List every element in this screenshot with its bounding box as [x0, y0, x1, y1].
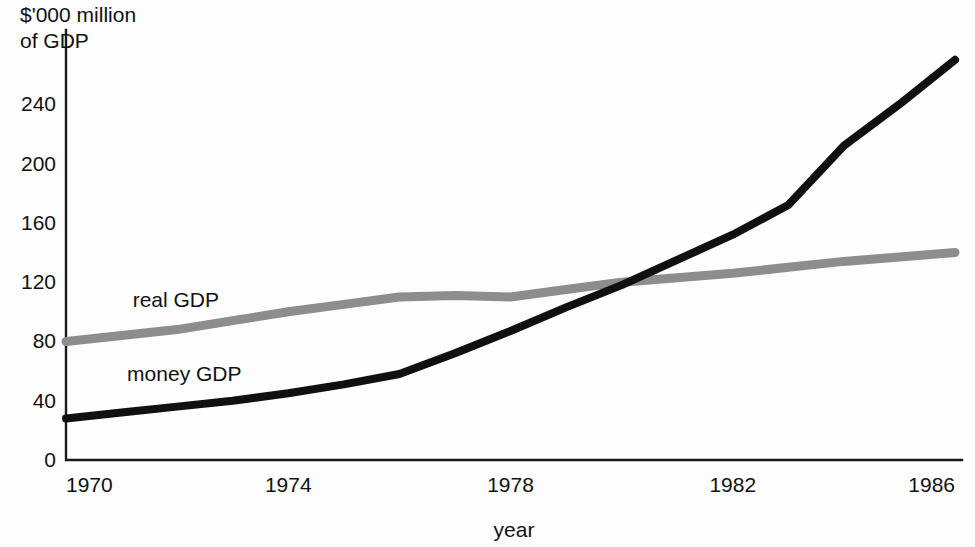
- y-tick-label: 0: [44, 448, 56, 471]
- y-tick-label: 200: [21, 152, 56, 175]
- chart-canvas: $'000 million of GDP 04080120160200240 1…: [0, 0, 975, 547]
- y-tick-label: 40: [33, 389, 56, 412]
- y-tick-label: 120: [21, 270, 56, 293]
- gdp-line-chart: $'000 million of GDP 04080120160200240 1…: [0, 0, 975, 547]
- series-label-real-gdp: real GDP: [133, 288, 219, 311]
- y-axis-title-line1: $'000 million: [20, 3, 136, 26]
- y-tick-label: 80: [33, 329, 56, 352]
- y-axis-tick-labels: 04080120160200240: [21, 92, 56, 471]
- y-tick-label: 160: [21, 211, 56, 234]
- x-axis-title: year: [494, 518, 535, 541]
- x-tick-label: 1978: [487, 473, 534, 496]
- x-tick-label: 1982: [709, 473, 756, 496]
- x-tick-label: 1974: [265, 473, 312, 496]
- y-axis-title-line2: of GDP: [20, 29, 89, 52]
- series-label-money-gdp: money GDP: [127, 362, 241, 385]
- y-tick-label: 240: [21, 92, 56, 115]
- x-tick-label: 1970: [66, 473, 113, 496]
- x-tick-label: 1986: [908, 473, 955, 496]
- x-axis-tick-labels: 19701974197819821986: [66, 473, 955, 496]
- chart-axes: [66, 30, 962, 460]
